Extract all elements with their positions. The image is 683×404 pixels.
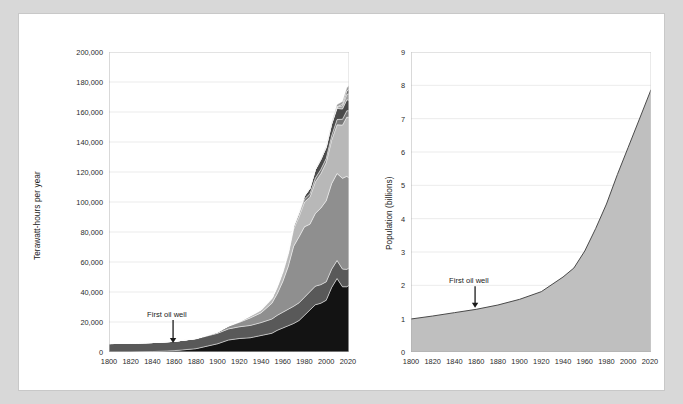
population-y-tick-0: 0 xyxy=(395,348,405,357)
energy-x-tick-11: 2020 xyxy=(334,357,362,366)
energy-y-tick-9: 180,000 xyxy=(69,78,103,87)
energy-y-tick-4: 80,000 xyxy=(69,228,103,237)
population-y-tick-3: 3 xyxy=(395,248,405,257)
population-y-tick-8: 8 xyxy=(395,81,405,90)
energy-annotation-first-oil-well: First oil well xyxy=(147,310,187,319)
energy-y-tick-2: 40,000 xyxy=(69,288,103,297)
chart-energy: Terawatt-hours per year 020,00040,00060,… xyxy=(19,14,374,392)
energy-y-tick-1: 20,000 xyxy=(69,318,103,327)
population-plot-area xyxy=(411,52,651,352)
population-y-tick-2: 2 xyxy=(395,281,405,290)
energy-y-tick-10: 200,000 xyxy=(69,48,103,57)
population-x-tick-11: 2020 xyxy=(636,357,664,366)
population-y-tick-9: 9 xyxy=(395,48,405,57)
population-y-tick-5: 5 xyxy=(395,181,405,190)
population-y-axis-title: Population (billions) xyxy=(385,176,394,250)
energy-y-tick-6: 120,000 xyxy=(69,168,103,177)
population-y-tick-4: 4 xyxy=(395,215,405,224)
energy-y-tick-5: 100,000 xyxy=(69,198,103,207)
population-y-tick-6: 6 xyxy=(395,148,405,157)
population-annotation-first-oil-well: First oil well xyxy=(449,276,489,285)
population-y-tick-1: 1 xyxy=(395,315,405,324)
figure-root: Terawatt-hours per year 020,00040,00060,… xyxy=(0,0,683,404)
figure-panel: Terawatt-hours per year 020,00040,00060,… xyxy=(18,13,665,391)
energy-y-tick-7: 140,000 xyxy=(69,138,103,147)
energy-plot-area xyxy=(109,52,349,352)
energy-y-tick-8: 160,000 xyxy=(69,108,103,117)
chart-population: Population (billions) 0123456789 1800182… xyxy=(369,14,666,392)
energy-y-tick-0: 0 xyxy=(69,348,103,357)
population-y-tick-7: 7 xyxy=(395,115,405,124)
energy-y-axis-title: Terawatt-hours per year xyxy=(33,171,42,260)
energy-y-tick-3: 60,000 xyxy=(69,258,103,267)
